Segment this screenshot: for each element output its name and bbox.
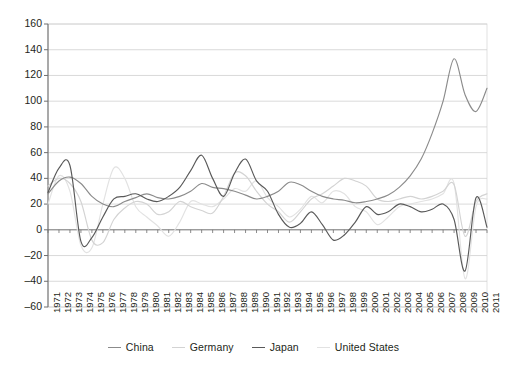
y-axis-tick-label: 20: [0, 198, 42, 208]
x-axis-tick-label: 1988: [239, 292, 248, 313]
x-axis-tick-label: 2005: [425, 292, 434, 313]
legend-label: Germany: [190, 341, 234, 353]
legend-label: United States: [335, 341, 399, 353]
legend-color-swatch: [108, 347, 121, 348]
x-axis-tick-label: 1994: [304, 292, 313, 313]
legend-item-china[interactable]: China: [108, 341, 154, 353]
legend-label: Japan: [270, 341, 299, 353]
x-axis-tick-label: 1972: [63, 292, 72, 313]
x-axis-tick-label: 2011: [491, 293, 500, 313]
y-axis-tick-label: 60: [0, 147, 42, 157]
y-axis-tick-label: 120: [0, 69, 42, 79]
legend-item-united-states[interactable]: United States: [317, 341, 399, 353]
y-axis-tick-label: 140: [0, 44, 42, 54]
x-axis-tick-label: 2003: [403, 292, 412, 313]
y-axis-tick-label: –60: [0, 301, 42, 311]
x-axis-tick-label: 1976: [107, 292, 116, 313]
x-axis-tick-label: 2002: [392, 292, 401, 313]
x-axis-tick-label: 1979: [140, 292, 149, 313]
x-axis-tick-label: 1986: [217, 292, 226, 313]
x-axis-tick-label: 1987: [228, 292, 237, 313]
x-axis-tick-label: 2009: [469, 292, 478, 313]
x-axis-tick-label: 2007: [447, 292, 456, 313]
x-axis-tick-label: 1974: [85, 292, 94, 313]
x-axis-tick-label: 1985: [206, 292, 215, 313]
x-axis-tick-label: 2004: [414, 292, 423, 313]
legend-color-swatch: [317, 347, 330, 348]
chart-container: 160140120100806040200–20–40–60 197119721…: [0, 0, 507, 368]
x-axis-tick-label: 1989: [250, 292, 259, 313]
x-axis-tick-label: 2008: [458, 292, 467, 313]
x-axis-tick-label: 1995: [315, 292, 324, 313]
x-axis-tick-label: 1990: [261, 292, 270, 313]
legend-item-germany[interactable]: Germany: [172, 341, 234, 353]
x-axis-tick-label: 1999: [359, 292, 368, 313]
x-axis-tick-label: 2000: [370, 292, 379, 313]
x-axis-tick-label: 1973: [74, 292, 83, 313]
x-axis-tick-label: 2010: [480, 292, 489, 313]
x-axis-tick-label: 1978: [129, 292, 138, 313]
x-axis-tick-label: 1993: [293, 292, 302, 313]
y-axis-tick-label: 40: [0, 172, 42, 182]
legend-label: China: [126, 341, 154, 353]
x-axis-tick-label: 1991: [272, 292, 281, 313]
x-axis-tick-label: 2001: [381, 292, 390, 313]
x-axis-tick-label: 1975: [96, 292, 105, 313]
x-axis-tick-label: 2006: [436, 292, 445, 313]
x-axis-tick-label: 1998: [348, 292, 357, 313]
y-axis-tick-label: 100: [0, 95, 42, 105]
legend-color-swatch: [172, 347, 185, 348]
y-axis-tick-label: 80: [0, 121, 42, 131]
y-axis-tick-label: –40: [0, 275, 42, 285]
x-axis-tick-label: 1980: [151, 292, 160, 313]
y-axis-tick-label: 0: [0, 224, 42, 234]
x-axis-tick-label: 1983: [184, 292, 193, 313]
x-axis-tick-label: 1977: [118, 292, 127, 313]
chart-legend: ChinaGermanyJapanUnited States: [0, 336, 507, 358]
x-axis-tick-label: 1981: [162, 292, 171, 313]
x-axis-tick-label: 1992: [282, 292, 291, 313]
y-axis-tick-label: –20: [0, 250, 42, 260]
y-axis-tick-label: 160: [0, 18, 42, 28]
x-axis-tick-label: 1982: [173, 292, 182, 313]
x-axis-tick-label: 1984: [195, 292, 204, 313]
x-axis-tick-label: 1996: [326, 292, 335, 313]
legend-item-japan[interactable]: Japan: [252, 341, 299, 353]
x-axis-tick-label: 1997: [337, 292, 346, 313]
legend-color-swatch: [252, 347, 265, 348]
x-axis-tick-label: 1971: [52, 292, 61, 313]
